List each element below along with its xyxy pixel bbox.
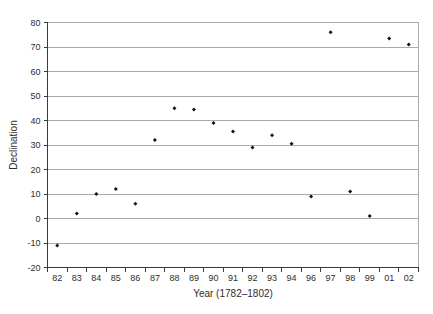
y-tick-label: 20 bbox=[30, 165, 40, 175]
data-point bbox=[55, 243, 59, 247]
data-point bbox=[172, 106, 176, 110]
y-tick-label: 0 bbox=[35, 214, 40, 224]
x-tick-label: 91 bbox=[228, 273, 238, 283]
y-tick-label: 60 bbox=[30, 67, 40, 77]
x-tick-label: 94 bbox=[287, 273, 297, 283]
data-point bbox=[133, 202, 137, 206]
chart-canvas: -20-100102030405060708082838485868788899… bbox=[0, 0, 433, 314]
gridlines-layer bbox=[48, 23, 419, 268]
x-tick-label: 98 bbox=[345, 273, 355, 283]
x-tick-label: 97 bbox=[326, 273, 336, 283]
x-tick-label: 01 bbox=[384, 273, 394, 283]
x-tick-label: 85 bbox=[111, 273, 121, 283]
y-tick-label: 40 bbox=[30, 116, 40, 126]
y-tick-label: -20 bbox=[27, 263, 40, 273]
x-tick-label: 89 bbox=[189, 273, 199, 283]
x-tick-label: 82 bbox=[52, 273, 62, 283]
data-point bbox=[329, 30, 333, 34]
y-tick-label: -10 bbox=[27, 238, 40, 248]
data-point bbox=[251, 145, 255, 149]
y-tick-label: 70 bbox=[30, 42, 40, 52]
data-point bbox=[270, 133, 274, 137]
x-tick-label: 86 bbox=[130, 273, 140, 283]
data-point bbox=[192, 107, 196, 111]
axes-layer bbox=[44, 23, 419, 272]
x-tick-label: 88 bbox=[169, 273, 179, 283]
data-point bbox=[309, 194, 313, 198]
data-point bbox=[114, 187, 118, 191]
x-tick-label: 99 bbox=[365, 273, 375, 283]
data-point bbox=[368, 214, 372, 218]
y-axis-title: Declination bbox=[8, 120, 19, 169]
data-point bbox=[348, 190, 352, 194]
data-point bbox=[387, 36, 391, 40]
data-point bbox=[94, 192, 98, 196]
x-tick-label: 87 bbox=[150, 273, 160, 283]
y-tick-label: 50 bbox=[30, 91, 40, 101]
y-tick-label: 80 bbox=[30, 18, 40, 28]
data-points-layer bbox=[55, 30, 410, 247]
x-tick-label: 02 bbox=[404, 273, 414, 283]
data-point bbox=[153, 138, 157, 142]
x-tick-label: 96 bbox=[306, 273, 316, 283]
x-tick-label: 83 bbox=[72, 273, 82, 283]
data-point bbox=[75, 212, 79, 216]
x-tick-label: 93 bbox=[267, 273, 277, 283]
x-tick-label: 84 bbox=[91, 273, 101, 283]
y-tick-label: 10 bbox=[30, 189, 40, 199]
y-tick-label: 30 bbox=[30, 140, 40, 150]
data-point bbox=[407, 43, 411, 47]
data-point bbox=[211, 121, 215, 125]
x-axis-title: Year (1782–1802) bbox=[193, 288, 273, 299]
chart-page: -20-100102030405060708082838485868788899… bbox=[0, 0, 433, 314]
data-point bbox=[231, 130, 235, 134]
x-tick-label: 90 bbox=[208, 273, 218, 283]
x-tick-label: 92 bbox=[248, 273, 258, 283]
declination-scatter-chart: -20-100102030405060708082838485868788899… bbox=[0, 0, 433, 314]
